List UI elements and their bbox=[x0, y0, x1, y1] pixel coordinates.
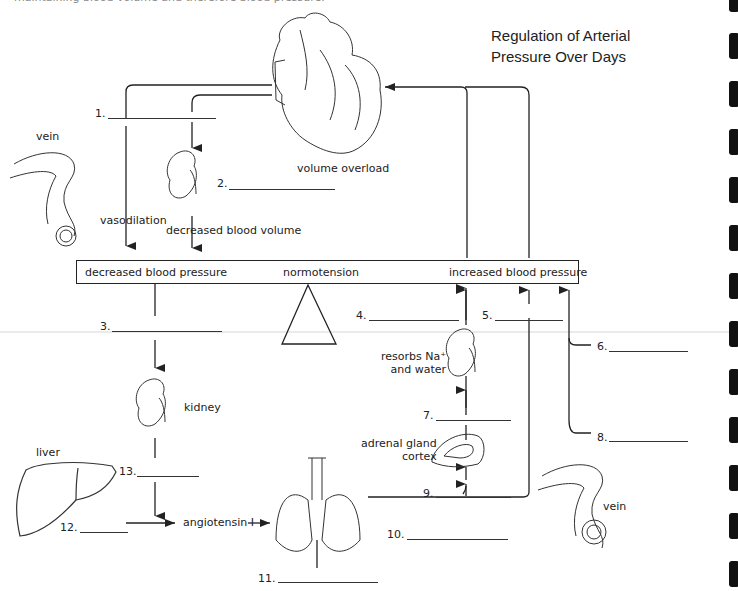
binding-mark bbox=[729, 129, 738, 155]
adrenal-gland-illustration bbox=[432, 434, 484, 467]
kidney-illustration-right bbox=[446, 329, 475, 376]
binding-mark bbox=[729, 177, 738, 203]
label-adrenal-gland-cortex: adrenal gland cortex bbox=[357, 437, 437, 463]
blank-12-number: 12. bbox=[60, 521, 78, 534]
binding-mark bbox=[729, 417, 738, 443]
label-adrenal-line1: adrenal gland bbox=[357, 437, 437, 450]
binding-mark bbox=[729, 321, 738, 347]
blank-7-number: 7. bbox=[423, 409, 434, 422]
label-resorbs-na: resorbs Na⁺ and water bbox=[381, 350, 446, 376]
label-angiotensin-i: angiotensin I bbox=[183, 516, 254, 529]
label-volume-overload: volume overload bbox=[297, 162, 389, 175]
binding-mark bbox=[729, 225, 738, 251]
blank-9-line[interactable] bbox=[436, 497, 511, 498]
blank-2-number: 2. bbox=[217, 177, 228, 190]
vein-illustration-right bbox=[538, 465, 606, 548]
label-kidney: kidney bbox=[184, 401, 221, 414]
binding-mark bbox=[729, 81, 738, 107]
label-decreased-blood-volume: decreased blood volume bbox=[166, 224, 301, 237]
blank-10-number: 10. bbox=[387, 528, 405, 541]
blood-pressure-balance-bar: decreased blood pressure normotension in… bbox=[76, 260, 579, 284]
binding-mark bbox=[729, 273, 738, 299]
blank-11-line[interactable] bbox=[278, 582, 378, 583]
bar-label-decreased: decreased blood pressure bbox=[85, 266, 227, 279]
binding-mark bbox=[729, 465, 738, 491]
blank-13-line[interactable] bbox=[137, 476, 199, 477]
blank-11-number: 11. bbox=[258, 572, 276, 585]
blank-10-line[interactable] bbox=[407, 539, 508, 540]
blank-6-number: 6. bbox=[597, 340, 608, 353]
blank-3-line[interactable] bbox=[112, 331, 222, 332]
blank-13-number: 13. bbox=[119, 465, 137, 478]
label-vein-right: vein bbox=[603, 500, 626, 513]
blank-9-number: 9. bbox=[423, 487, 434, 500]
blank-5-number: 5. bbox=[482, 309, 493, 322]
blank-8-number: 8. bbox=[597, 431, 608, 444]
blank-4-number: 4. bbox=[356, 309, 367, 322]
binding-mark bbox=[729, 513, 738, 539]
blank-1-line[interactable] bbox=[108, 118, 216, 119]
blank-6-line[interactable] bbox=[609, 351, 688, 352]
blank-2-line[interactable] bbox=[229, 189, 335, 190]
blank-8-line[interactable] bbox=[609, 441, 688, 442]
vein-illustration-left bbox=[10, 153, 76, 246]
kidney-illustration-top bbox=[167, 151, 196, 198]
label-vasodilation: vasodilation bbox=[100, 214, 167, 227]
binding-mark bbox=[729, 0, 738, 12]
blank-5-line[interactable] bbox=[495, 320, 563, 321]
label-liver: liver bbox=[36, 446, 60, 459]
bar-label-increased: increased blood pressure bbox=[449, 266, 587, 279]
binding-mark bbox=[729, 369, 738, 395]
label-vein-left: vein bbox=[36, 130, 59, 143]
blank-4-line[interactable] bbox=[369, 320, 459, 321]
blank-7-line[interactable] bbox=[436, 420, 511, 421]
label-resorbs-line2: and water bbox=[381, 363, 446, 376]
heart-illustration bbox=[273, 13, 382, 153]
binding-mark bbox=[729, 33, 738, 59]
lungs-illustration bbox=[276, 458, 360, 551]
blank-1-number: 1. bbox=[95, 107, 106, 120]
label-adrenal-line2: cortex bbox=[357, 450, 437, 463]
label-resorbs-line1: resorbs Na⁺ bbox=[381, 350, 446, 363]
blank-12-line[interactable] bbox=[80, 532, 128, 533]
blank-3-number: 3. bbox=[100, 320, 111, 333]
kidney-illustration-middle bbox=[136, 379, 165, 426]
bar-label-normotension: normotension bbox=[283, 266, 359, 279]
binding-mark bbox=[729, 561, 738, 587]
